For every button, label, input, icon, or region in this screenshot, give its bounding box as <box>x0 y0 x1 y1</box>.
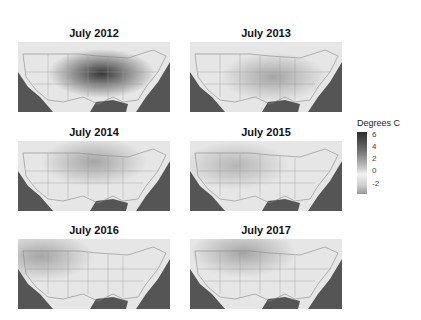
legend-tick: -2 <box>372 179 379 188</box>
map-panel: July 2014 <box>18 123 170 211</box>
legend-tick: 6 <box>372 130 376 139</box>
us-temperature-map <box>18 42 170 112</box>
map-panel: July 2015 <box>190 123 342 211</box>
map-panel: July 2013 <box>190 24 342 112</box>
legend-tick: 0 <box>372 166 376 175</box>
legend-title: Degrees C <box>357 118 400 128</box>
us-temperature-map <box>18 141 170 211</box>
map-panel: July 2012 <box>18 24 170 112</box>
legend-tick: 4 <box>372 142 376 151</box>
panel-title: July 2016 <box>18 221 170 239</box>
panel-title: July 2013 <box>190 24 342 42</box>
panel-title: July 2012 <box>18 24 170 42</box>
panel-title: July 2017 <box>190 221 342 239</box>
us-temperature-map <box>190 239 342 309</box>
us-temperature-map <box>190 141 342 211</box>
legend-colorbar <box>357 132 367 194</box>
color-legend: Degrees C 6 4 2 0 -2 <box>357 118 400 131</box>
panel-title: July 2015 <box>190 123 342 141</box>
panel-title: July 2014 <box>18 123 170 141</box>
map-panel: July 2016 <box>18 221 170 309</box>
us-temperature-map <box>190 42 342 112</box>
legend-tick: 2 <box>372 154 376 163</box>
us-temperature-map <box>18 239 170 309</box>
map-panel: July 2017 <box>190 221 342 309</box>
